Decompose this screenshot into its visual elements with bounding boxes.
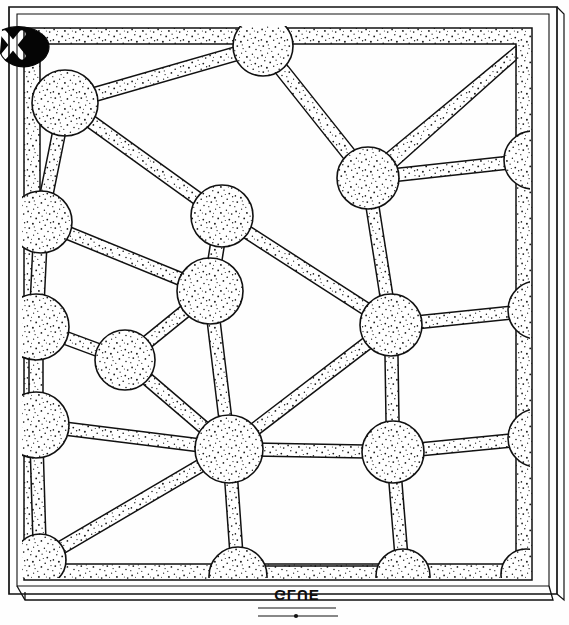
node-upper-left — [32, 70, 98, 136]
lattice-figure: GLUE — [0, 0, 569, 625]
annotation-label: GLUE — [274, 587, 320, 604]
node-lower-right — [362, 421, 424, 483]
node-top-right-inner — [337, 147, 399, 209]
drawing-canvas: GLUE — [0, 0, 569, 625]
node-mid-upper — [191, 185, 253, 247]
node-right-center — [360, 294, 422, 356]
node-mid-center — [177, 258, 243, 324]
node-hub-center — [195, 415, 263, 483]
node-inner-left — [95, 330, 155, 390]
